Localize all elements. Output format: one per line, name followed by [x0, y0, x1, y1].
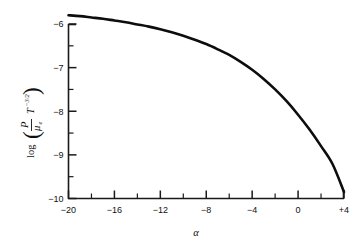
- y-axis-tick-labels: −10−9−8−7−6: [48, 19, 63, 204]
- y-axis-ticks: [69, 24, 77, 199]
- x-tick-label: −20: [61, 205, 76, 215]
- chart-canvas: −10−9−8−7−6 −20−16−12−8−40+4 α log ( P μ…: [0, 0, 362, 250]
- y-axis-label: log ( P μ e T −3/2 ): [19, 87, 44, 158]
- plot-frame: [68, 24, 344, 199]
- x-axis-tick-labels: −20−16−12−8−40+4: [61, 205, 349, 215]
- x-axis-ticks: [69, 191, 345, 199]
- x-tick-label: −16: [107, 205, 122, 215]
- data-curve-line: [69, 15, 345, 192]
- x-tick-label: 0: [296, 205, 301, 215]
- x-tick-label: −4: [247, 205, 257, 215]
- y-tick-label: −6: [53, 19, 63, 29]
- y-label-times-variable: T: [25, 107, 36, 114]
- y-label-close-paren: ): [19, 87, 44, 95]
- y-tick-label: −8: [53, 107, 63, 117]
- y-label-denominator-subscript: e: [36, 122, 43, 125]
- y-tick-label: −10: [48, 194, 63, 204]
- y-label-numerator: P: [19, 121, 30, 129]
- x-axis-label: α: [193, 227, 199, 238]
- chart-figure: −10−9−8−7−6 −20−16−12−8−40+4 α log ( P μ…: [0, 0, 362, 250]
- x-tick-label: +4: [339, 205, 349, 215]
- y-label-log: log: [25, 144, 36, 158]
- x-tick-label: −12: [153, 205, 168, 215]
- y-tick-label: −7: [53, 63, 63, 73]
- y-label-denominator: μ: [31, 126, 42, 132]
- x-tick-label: −8: [201, 205, 211, 215]
- y-tick-label: −9: [53, 150, 63, 160]
- y-label-open-paren: (: [19, 131, 44, 139]
